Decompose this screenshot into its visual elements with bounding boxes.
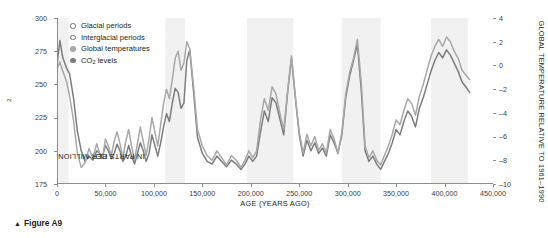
x-tickmark (396, 184, 397, 187)
x-tick: 450,000 (480, 189, 506, 198)
y-tick-right: –2 (499, 85, 539, 94)
y-tickmark-right (493, 160, 496, 161)
legend-label: Interglacial periods (81, 33, 145, 42)
x-tick: 300,000 (335, 189, 361, 198)
x-tick: 50,000 (94, 189, 116, 198)
x-tickmark (105, 184, 106, 187)
open-circle-icon (70, 23, 81, 29)
y-tickmark-left (54, 118, 57, 119)
y-tick-right: –10 (499, 180, 539, 189)
y-tick-left: 300 (7, 14, 47, 23)
y-tick-left: 175 (7, 180, 47, 189)
legend-label: CO2 levels (81, 56, 117, 65)
y-tickmark-right (493, 113, 496, 114)
x-tick: 350,000 (383, 189, 409, 198)
y-tick-right: –6 (499, 132, 539, 141)
x-tickmark (154, 184, 155, 187)
x-tickmark (202, 184, 203, 187)
y-tick-left: 250 (7, 80, 47, 89)
x-axis-title: AGE (YEARS AGO) (57, 199, 493, 208)
x-tickmark (445, 184, 446, 187)
y-tick-right: 2 (499, 38, 539, 47)
y-tickmark-left (54, 18, 57, 19)
x-tick: 100,000 (141, 189, 167, 198)
y-tickmark-left (54, 84, 57, 85)
x-tick: 200,000 (238, 189, 264, 198)
y-tick-right: 4 (499, 14, 539, 23)
y-tickmark-left (54, 51, 57, 52)
filled-circle-icon (70, 46, 81, 52)
open-circle-icon (70, 35, 81, 41)
x-tick: 150,000 (189, 189, 215, 198)
legend-item-interglacial: Interglacial periods (70, 32, 150, 44)
x-tick: 400,000 (432, 189, 458, 198)
y-tick-left: 275 (7, 47, 47, 56)
figure-a9: 175200225250275300–10–8–6–4–2024050,0001… (0, 0, 548, 238)
y-tick-right: 0 (499, 61, 539, 70)
legend-label: Glacial periods (81, 21, 131, 30)
figure-caption: ▲ Figure A9 (14, 218, 62, 228)
figure-caption-text: Figure A9 (24, 218, 62, 228)
x-tick: 250,000 (286, 189, 312, 198)
x-tickmark (299, 184, 300, 187)
chart-legend: Glacial periods Interglacial periods Glo… (70, 20, 150, 66)
x-tickmark (251, 184, 252, 187)
filled-circle-icon (70, 58, 81, 64)
y-tickmark-right (493, 18, 496, 19)
triangle-marker-icon: ▲ (14, 220, 21, 227)
legend-label: Global temperatures (81, 44, 150, 53)
legend-item-global-temperatures: Global temperatures (70, 43, 150, 55)
x-tick: 0 (55, 189, 59, 198)
y-tickmark-right (493, 65, 496, 66)
legend-item-co2-levels: CO2 levels (70, 55, 150, 67)
y-tickmark-right (493, 89, 496, 90)
x-tickmark (57, 184, 58, 187)
legend-item-glacial: Glacial periods (70, 20, 150, 32)
y-tick-right: –4 (499, 109, 539, 118)
y-tickmark-right (493, 137, 496, 138)
x-tickmark (348, 184, 349, 187)
y-tickmark-right (493, 42, 496, 43)
y-tick-left: 225 (7, 113, 47, 122)
y-tick-right: –8 (499, 156, 539, 165)
x-tickmark (493, 184, 494, 187)
